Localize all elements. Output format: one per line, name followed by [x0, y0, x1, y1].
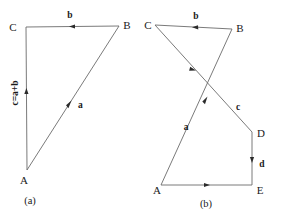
- panel-b-vector-label-b: b: [193, 11, 198, 21]
- panel-b-edge-cd: [155, 25, 252, 132]
- panel-a: C B A b a c=a+b (a): [9, 10, 130, 207]
- panel-b-vertex-label-D: D: [257, 127, 265, 139]
- panel-b-caption: (b): [200, 198, 213, 210]
- panel-b-vertex-label-E: E: [257, 184, 264, 196]
- panel-a-edge-ac: [26, 27, 27, 170]
- panel-a-vertex-label-A: A: [20, 174, 28, 186]
- panel-b-vector-label-c: c: [236, 102, 240, 112]
- panel-b-vertex-label-C: C: [144, 19, 151, 31]
- panel-b-edge-ab: [161, 29, 232, 185]
- vector-diagram-figure: C B A b a c=a+b (a): [0, 0, 288, 215]
- panel-a-vector-label-a: a: [78, 100, 83, 110]
- panel-b-vertex-label-A: A: [153, 184, 161, 196]
- panel-a-vertex-label-B: B: [123, 19, 130, 31]
- panel-b-edge-ab-arrowhead-icon: [202, 97, 207, 105]
- panel-b-vertex-label-B: B: [236, 22, 243, 34]
- panel-a-edge-ac-arrowhead-icon: [24, 88, 28, 94]
- panel-b-vector-label-a: a: [184, 122, 189, 132]
- panel-a-edge-cb-arrowhead-icon: [69, 24, 75, 28]
- panel-a-caption: (a): [24, 195, 36, 207]
- panel-b-vector-label-d: d: [259, 159, 265, 169]
- panel-b-edge-cb-arrowhead-icon: [192, 25, 198, 29]
- panel-a-vertex-label-C: C: [9, 21, 16, 33]
- panel-a-vector-label-c-sum: c=a+b: [10, 80, 20, 105]
- panel-b-edge-ae-arrowhead-icon: [204, 183, 210, 187]
- panel-b-edge-de-arrowhead-icon: [250, 157, 254, 163]
- panel-a-edge-ab: [27, 26, 119, 170]
- panel-a-vector-label-b: b: [67, 10, 72, 20]
- panel-b: C B D E A b c a d (b): [144, 11, 265, 210]
- figure-canvas: C B A b a c=a+b (a): [0, 0, 288, 215]
